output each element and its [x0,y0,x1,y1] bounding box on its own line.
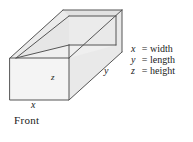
legend-word-height: height [150,65,175,76]
legend-equals-z: = [139,65,150,76]
box-face-inner-back [63,10,122,16]
variable-legend: x = width y = length z = height [131,43,193,76]
legend-symbol-z: z [131,65,139,76]
legend-equals-y: = [139,54,150,65]
box-face-front [10,58,69,100]
edge-label-z: z [51,73,55,82]
legend-word-length: length [150,54,175,65]
legend-equals-x: = [139,43,150,54]
legend-symbol-y: y [131,54,139,65]
legend-word-width: width [150,43,173,54]
figure-caption-front: Front [14,115,39,126]
legend-symbol-x: x [131,43,139,54]
legend-row-y: y = length [131,54,193,65]
legend-row-x: x = width [131,43,193,54]
edge-label-x: x [31,100,35,110]
figure-container: x y z Front x = width y = length z = hei… [0,0,193,142]
legend-row-z: z = height [131,65,193,76]
edge-label-y: y [104,66,108,76]
